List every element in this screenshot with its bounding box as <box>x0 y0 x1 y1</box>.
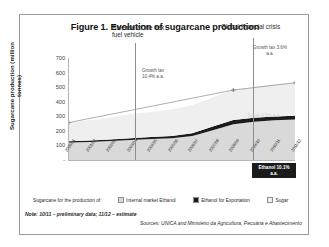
y-axis-tick-label: 300 <box>49 113 65 119</box>
y-axis-tick-label: 700 <box>49 55 65 61</box>
event-label-crisis: Global financial crisis <box>221 23 280 30</box>
ethanol-callout-badge: Ethanol 10.1% a.a. <box>252 163 296 178</box>
event-label-flex: Release of the flex fuel vehicle <box>112 24 172 39</box>
legend-swatch-sugar <box>267 197 273 203</box>
legend-label-sugar: Sugar <box>275 198 288 203</box>
y-axis-tick-label: 200 <box>49 128 65 134</box>
chart-plot-wrapper: Sugarcane production (million tonnes) -1… <box>31 35 299 183</box>
y-axis-tick-label: - <box>49 157 65 163</box>
figure-note: Note: 10/11 – preliminary data; 11/12 – … <box>25 211 137 217</box>
growth-annotation-right: Growth tax 3.6% a.a. <box>253 45 287 56</box>
legend-swatch-internal-ethanol <box>118 197 124 203</box>
legend-item-export-ethanol: Ethanol for Exportation <box>193 197 250 203</box>
legend-label-export-ethanol: Ethanol for Exportation <box>201 198 250 203</box>
y-axis-title: Sugarcane production (million tonnes) <box>8 31 22 141</box>
figure-sources: Sources: UNICA and Ministério da Agricul… <box>140 220 302 226</box>
chart-legend: Sugarcane for the production of: Interna… <box>33 197 299 203</box>
y-axis-tick-label: 400 <box>49 99 65 105</box>
legend-label-internal-ethanol: Internal market Ethanol <box>126 198 176 203</box>
legend-caption: Sugarcane for the production of: <box>33 198 102 203</box>
figure-container: Figure 1. Evolution of sugarcane product… <box>19 14 309 235</box>
y-axis-tick-label: 600 <box>49 70 65 76</box>
y-axis-tick-label: 500 <box>49 84 65 90</box>
event-marker-crisis-line <box>253 38 254 160</box>
legend-item-sugar: Sugar <box>267 197 288 203</box>
y-axis-tick-label: 100 <box>49 142 65 148</box>
growth-annotation-left: Growth tax 10.4% a.a. <box>135 68 171 79</box>
legend-swatch-export-ethanol <box>193 197 199 203</box>
sugar-watermark-label: Sugar 4.5% a.a. <box>246 113 282 119</box>
plot-area <box>68 58 295 161</box>
legend-item-internal-ethanol: Internal market Ethanol <box>118 197 176 203</box>
event-marker-flex-line <box>135 43 136 160</box>
stacked-area-plot <box>69 58 295 160</box>
